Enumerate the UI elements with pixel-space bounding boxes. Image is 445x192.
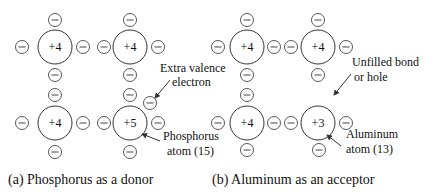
diagram-canvas: +4 +4 +4 +5	[0, 0, 445, 192]
arrow-icon	[327, 135, 341, 146]
atom-charge: +4	[49, 40, 62, 54]
atom-charge: +4	[241, 40, 254, 54]
atom-charge: +4	[241, 116, 254, 130]
annotation-phosphorus-line2: atom (15)	[167, 144, 214, 158]
annotation-extra-electron-line1: Extra valence	[160, 61, 226, 75]
annotation-phosphorus-line1: Phosphorus	[163, 129, 219, 143]
atom-a2: +4	[113, 30, 147, 64]
atom-a3: +4	[38, 106, 72, 140]
atom-a4-phosphorus: +5	[113, 106, 147, 140]
atom-charge: +5	[124, 116, 137, 130]
arrow-icon	[142, 134, 160, 141]
annotation-aluminum-line2: atom (13)	[346, 142, 393, 156]
caption-a: (a) Phosphorus as a donor	[8, 172, 154, 188]
atom-charge: +3	[312, 116, 325, 130]
atom-a1: +4	[38, 30, 72, 64]
electron-icon	[212, 14, 353, 157]
atom-b3: +4	[230, 106, 264, 140]
annotation-extra-electron-line2: electron	[172, 75, 211, 89]
caption-b: (b) Aluminum as an acceptor	[212, 172, 375, 188]
atom-b4-aluminum: +3	[301, 106, 335, 140]
panel-b-aluminum-acceptor: +4 +4 +4 +3	[212, 14, 420, 189]
arrow-icon	[155, 80, 170, 98]
atom-charge: +4	[312, 40, 325, 54]
panel-a-phosphorus-donor: +4 +4 +4 +5	[8, 14, 226, 189]
arrow-icon	[334, 74, 351, 95]
atom-charge: +4	[124, 40, 137, 54]
atom-b1: +4	[230, 30, 264, 64]
semiconductor-doping-diagram: +4 +4 +4 +5	[0, 0, 445, 192]
atom-b2: +4	[301, 30, 335, 64]
annotation-hole-line1: Unfilled bond	[352, 55, 419, 69]
annotation-aluminum-line1: Aluminum	[346, 127, 399, 141]
annotation-hole-line2: or hole	[354, 70, 388, 84]
atom-charge: +4	[49, 116, 62, 130]
